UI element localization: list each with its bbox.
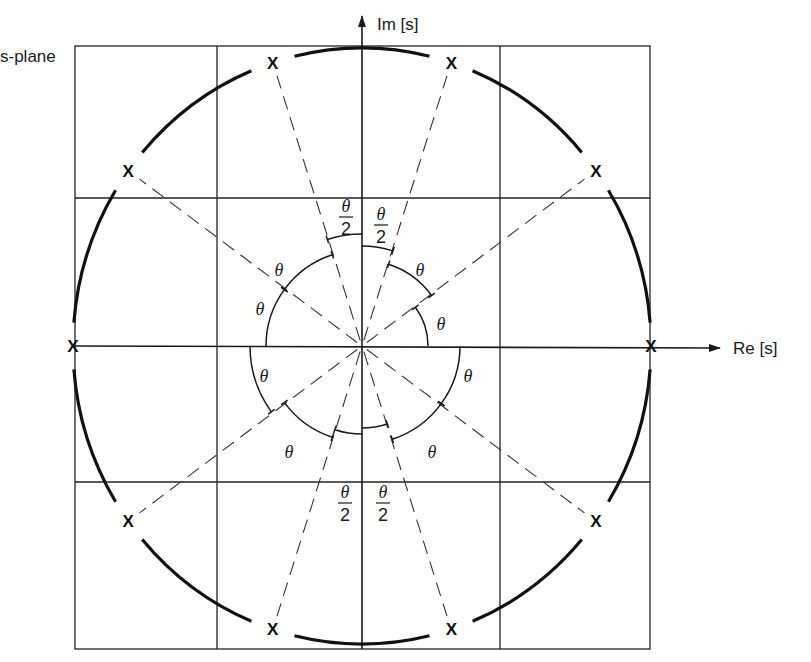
half-theta-label: θ2	[376, 482, 390, 525]
angle-arc	[441, 346, 460, 404]
svg-text:θ: θ	[342, 196, 351, 216]
real-axis	[75, 346, 720, 348]
radial-dashed-line	[140, 179, 358, 342]
svg-text:2: 2	[340, 505, 350, 525]
angle-arc	[284, 402, 332, 437]
angle-arc	[335, 430, 362, 434]
circle-arc-segment	[142, 71, 251, 153]
svg-text:θ: θ	[377, 204, 386, 224]
real-axis-label: Re [s]	[733, 339, 777, 358]
svg-text:2: 2	[376, 227, 386, 247]
svg-text:2: 2	[341, 219, 351, 239]
imag-axis-label: Im [s]	[377, 15, 419, 34]
theta-label: θ	[260, 366, 269, 386]
pole-marker: X	[67, 337, 79, 356]
theta-label: θ	[285, 442, 294, 462]
pole-marker: X	[446, 620, 458, 639]
pole-marker: X	[267, 54, 279, 73]
pole-marker: X	[446, 54, 458, 73]
pole-marker: X	[267, 620, 279, 639]
pole-marker: X	[123, 162, 135, 181]
svg-text:θ: θ	[379, 482, 388, 502]
radial-dashed-line	[364, 352, 447, 616]
svg-text:θ: θ	[341, 482, 350, 502]
radial-dashed-line	[140, 350, 358, 513]
radial-dashed-line	[367, 179, 585, 342]
pole-marker: X	[123, 512, 135, 531]
theta-label: θ	[275, 260, 284, 280]
pole-marker: X	[590, 162, 602, 181]
angle-arc	[266, 290, 284, 346]
half-theta-label: θ2	[338, 482, 352, 525]
theta-label: θ	[416, 260, 425, 280]
axes	[75, 16, 720, 649]
pole-marker: X	[590, 512, 602, 531]
circle-arc-segment	[473, 71, 582, 153]
theta-label: θ	[464, 366, 473, 386]
angle-arc	[392, 404, 441, 440]
circle-arc-segment	[74, 190, 116, 322]
pole-marker: X	[645, 337, 657, 356]
circle-arc-segment	[608, 190, 650, 322]
theta-label: θ	[428, 442, 437, 462]
s-plane-diagram: XXXXXXXXXX θθθθθθθθθ2θ2θ2θ2 s-plane Im […	[0, 0, 811, 662]
angle-arc	[389, 264, 432, 295]
angle-arc	[415, 307, 428, 346]
half-theta-label: θ2	[339, 196, 353, 239]
svg-text:2: 2	[378, 505, 388, 525]
angle-arc	[284, 255, 332, 290]
radial-dashed-line	[367, 350, 585, 513]
half-theta-label: θ2	[374, 204, 388, 247]
circle-arc-segment	[142, 540, 251, 622]
s-plane-label: s-plane	[0, 47, 56, 66]
theta-label: θ	[256, 299, 265, 319]
theta-label: θ	[437, 314, 446, 334]
angle-arc	[362, 424, 387, 428]
circle-arc-segment	[473, 540, 582, 622]
